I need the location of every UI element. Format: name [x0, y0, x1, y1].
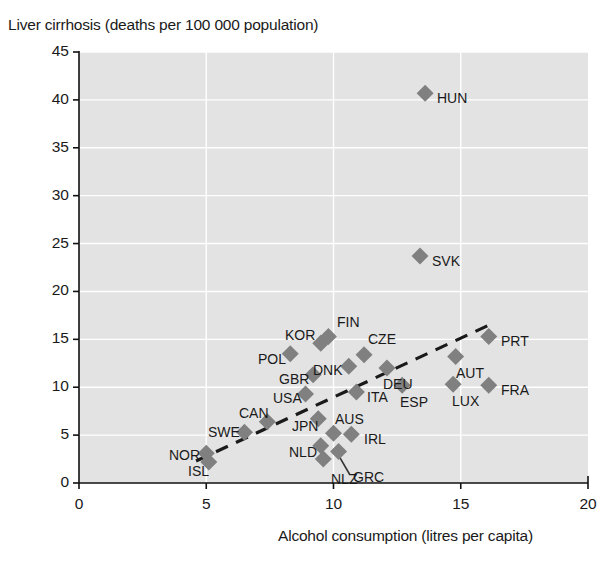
data-point-label: JPN: [292, 419, 318, 433]
plot-canvas: [0, 0, 610, 564]
data-point-label: ITA: [367, 390, 388, 404]
x-tick-label: 5: [186, 495, 226, 513]
data-point-label: LUX: [452, 394, 479, 408]
y-tick-label: 0: [23, 473, 69, 491]
y-tick-label: 25: [23, 234, 69, 252]
data-point-label: NLD: [289, 445, 317, 459]
data-point-label: AUT: [456, 366, 484, 380]
data-point-label: PRT: [501, 334, 529, 348]
y-tick-label: 35: [23, 138, 69, 156]
y-tick-label: 45: [23, 42, 69, 60]
data-point-label: HUN: [437, 91, 467, 105]
x-tick-label: 20: [568, 495, 608, 513]
data-point-label: SWE: [208, 425, 240, 439]
y-tick-label: 20: [23, 281, 69, 299]
data-point-label: DNK: [313, 363, 343, 377]
data-point-label: ISL: [188, 464, 209, 478]
y-tick-label: 5: [23, 425, 69, 443]
data-point-label: ESP: [400, 395, 428, 409]
data-point-label: USA: [273, 391, 302, 405]
data-point-label: CAN: [239, 406, 269, 420]
scatter-chart: Liver cirrhosis (deaths per 100 000 popu…: [0, 0, 610, 564]
data-point-label: GBR: [279, 372, 309, 386]
y-tick-label: 30: [23, 186, 69, 204]
data-point-label: SVK: [432, 254, 460, 268]
data-point-label: GRC: [353, 470, 384, 484]
data-point-label: NLZ: [331, 472, 357, 486]
data-point-label: AUS: [335, 412, 364, 426]
data-point-label: NOR: [169, 448, 200, 462]
x-tick-label: 0: [59, 495, 99, 513]
data-point-label: KOR: [285, 328, 315, 342]
x-tick-label: 10: [314, 495, 354, 513]
y-tick-label: 10: [23, 377, 69, 395]
data-point-label: FIN: [337, 315, 360, 329]
y-tick-label: 40: [23, 90, 69, 108]
data-point-label: FRA: [501, 383, 529, 397]
data-point-label: IRL: [364, 432, 386, 446]
x-tick-label: 15: [441, 495, 481, 513]
data-point-label: POL: [258, 352, 286, 366]
data-point-label: CZE: [368, 332, 396, 346]
y-tick-label: 15: [23, 329, 69, 347]
